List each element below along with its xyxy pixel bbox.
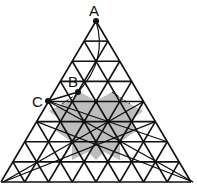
label-a: A	[89, 3, 99, 18]
triangle-grid-diagram	[0, 0, 197, 187]
label-b: B	[68, 74, 78, 89]
label-c: C	[32, 94, 43, 109]
